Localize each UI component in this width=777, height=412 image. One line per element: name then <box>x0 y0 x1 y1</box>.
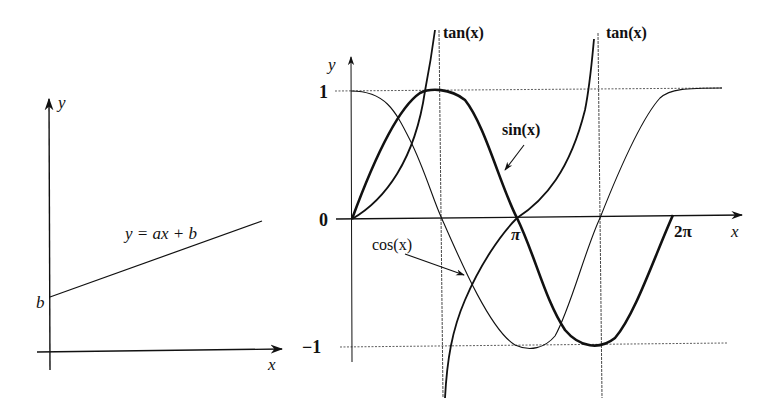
tan-curve-branch-2 <box>445 39 594 398</box>
linear-chart: y x b y = ax + b <box>36 93 282 374</box>
sin-arrow <box>505 145 524 170</box>
tick-zero: 0 <box>319 210 328 230</box>
y-minus-one-line <box>340 343 727 347</box>
cos-label: cos(x) <box>372 236 412 254</box>
trig-chart: y x 1 0 −1 π 2π tan(x) tan(x) sin(x) cos… <box>302 24 742 398</box>
cos-arrow <box>405 254 464 275</box>
figure: y x b y = ax + b y x 1 0 −1 π 2π tan(x) <box>0 0 777 412</box>
left-y-label: y <box>56 93 66 112</box>
right-y-axis <box>351 57 352 362</box>
sin-label: sin(x) <box>502 121 540 139</box>
line-equation-label: y = ax + b <box>123 224 197 243</box>
right-y-label: y <box>326 55 336 74</box>
left-x-label: x <box>267 355 276 374</box>
tick-minus-one: −1 <box>302 337 321 357</box>
right-x-axis <box>336 215 742 219</box>
left-y-axis <box>49 99 50 370</box>
intercept-label: b <box>36 293 45 312</box>
right-x-label: x <box>730 222 739 241</box>
tan-label-1: tan(x) <box>443 24 484 42</box>
tan-label-2: tan(x) <box>606 24 647 42</box>
left-x-axis <box>37 349 282 352</box>
tick-one: 1 <box>319 82 328 102</box>
y-one-line <box>335 88 722 91</box>
tick-two-pi: 2π <box>674 222 693 241</box>
tick-pi: π <box>511 225 521 244</box>
